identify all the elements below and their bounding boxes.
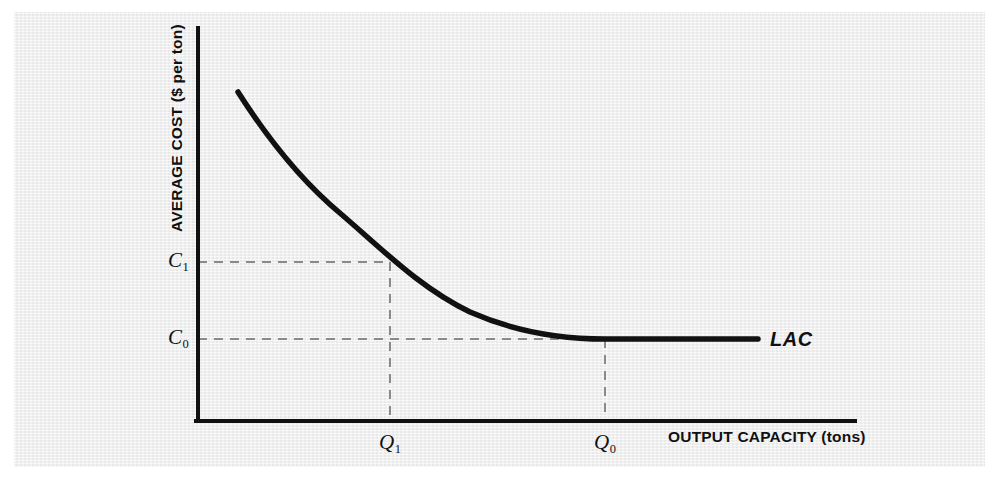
lac-curve <box>238 92 758 339</box>
lac-curve-label: LAC <box>770 328 813 351</box>
y-tick-c0-sub: 0 <box>183 337 189 351</box>
y-axis-title: AVERAGE COST ($ per ton) <box>168 24 186 232</box>
guide-lines <box>198 262 605 421</box>
x-tick-q1-sub: 1 <box>395 442 401 456</box>
axis-lines <box>196 28 855 421</box>
y-tick-c0-main: C <box>168 325 182 349</box>
x-tick-q0-sub: 0 <box>610 442 616 456</box>
x-tick-label-q1: Q1 <box>379 430 400 455</box>
y-tick-c1-main: C <box>168 248 182 272</box>
y-tick-label-c0: C0 <box>168 325 188 350</box>
x-axis-title: OUTPUT CAPACITY (tons) <box>668 428 866 446</box>
x-tick-label-q0: Q0 <box>594 430 615 455</box>
x-tick-q0-main: Q <box>594 430 609 454</box>
y-tick-c1-sub: 1 <box>183 260 189 274</box>
figure-root: AVERAGE COST ($ per ton) OUTPUT CAPACITY… <box>0 0 999 477</box>
y-tick-label-c1: C1 <box>168 248 188 273</box>
plot-canvas <box>0 0 999 477</box>
x-tick-q1-main: Q <box>379 430 394 454</box>
